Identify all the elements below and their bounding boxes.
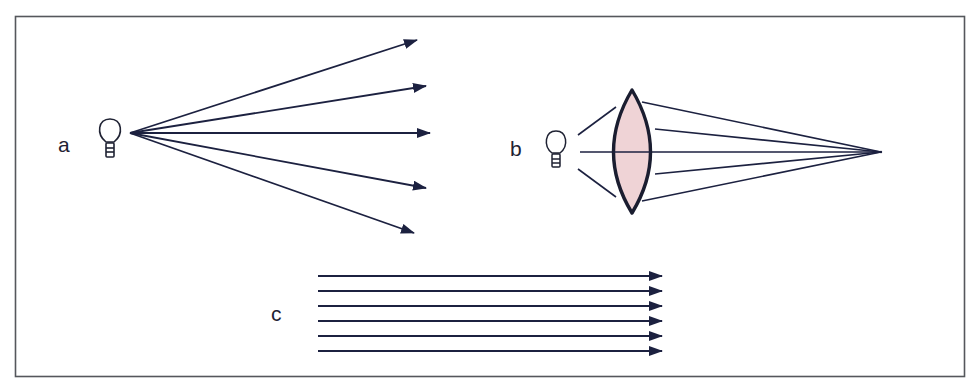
panel-label-b: b	[510, 137, 522, 160]
panel-label-c: c	[271, 302, 282, 325]
focal-point	[880, 151, 882, 153]
figure-frame	[16, 17, 965, 377]
optics-diagram: a b	[0, 0, 977, 389]
panel-label-a: a	[58, 133, 70, 156]
